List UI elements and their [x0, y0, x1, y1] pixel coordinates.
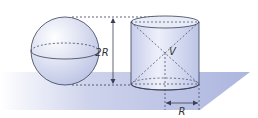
height-label: 2R: [95, 47, 108, 58]
ground-plane: [0, 72, 250, 110]
sphere-cylinder-diagram: 2R V R: [0, 0, 258, 118]
radius-label: R: [179, 106, 186, 117]
sphere: [31, 17, 99, 85]
volume-label: V: [169, 46, 177, 57]
